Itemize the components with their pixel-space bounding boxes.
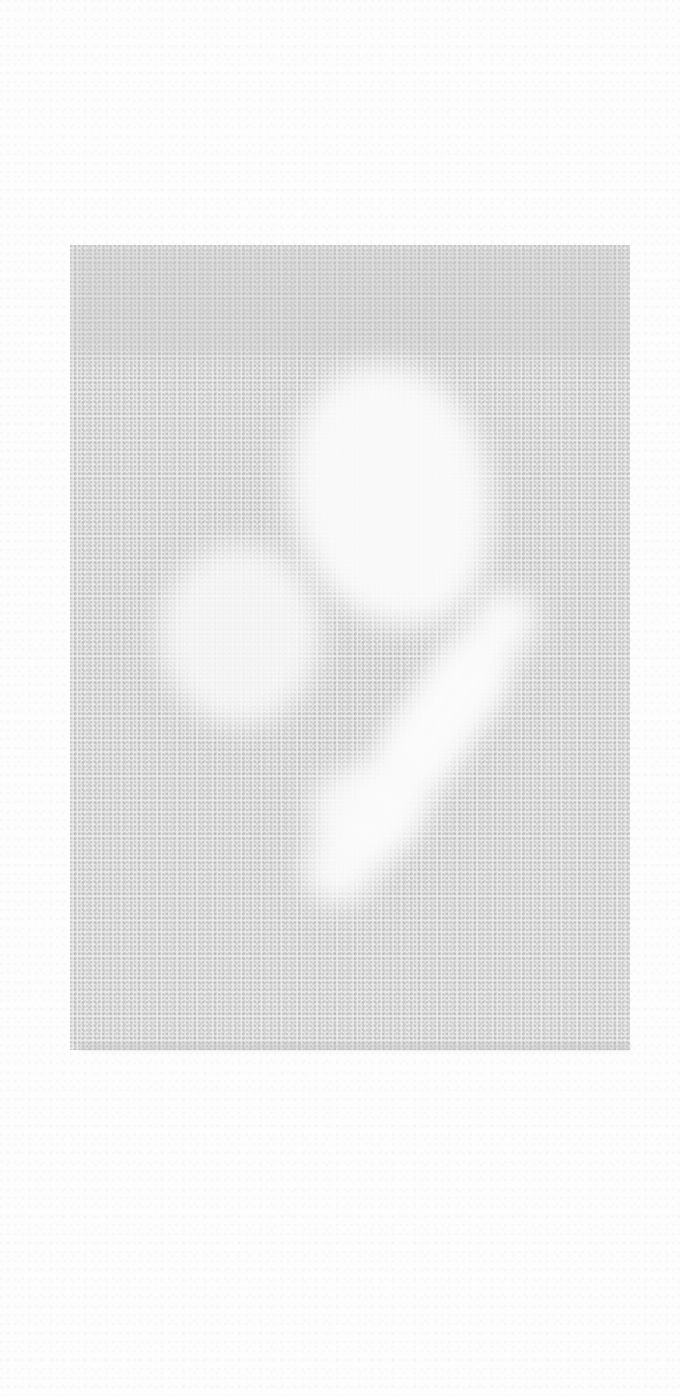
dark-noise-band [70, 245, 630, 355]
light-blob-shape [290, 365, 490, 625]
light-blob-shape [310, 765, 420, 855]
scanned-page [0, 0, 680, 1396]
light-blob-shape [160, 545, 320, 725]
scan-edge-artifact [80, 1044, 630, 1050]
noisy-image-region [70, 245, 630, 1050]
